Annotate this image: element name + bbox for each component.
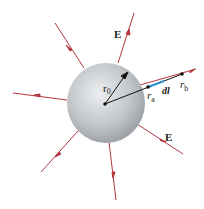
center-point [103,102,107,106]
label-ra: ra [147,89,155,104]
sphere-field-diagram: E E r0 ra rb dl [0,0,204,209]
label-E-bottom: E [165,131,172,143]
label-rb: rb [180,78,188,93]
diagram: E E r0 ra rb dl [0,0,204,209]
point-rb [180,72,184,76]
label-dl: dl [162,85,170,96]
label-E-top: E [114,28,121,40]
